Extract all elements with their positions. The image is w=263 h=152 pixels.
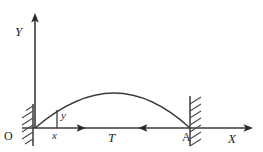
- ordinate-label: y: [61, 110, 66, 121]
- left-support-group: [22, 104, 33, 146]
- deflection-curve: [35, 93, 190, 128]
- diagram-canvas: [0, 0, 263, 152]
- origin-label: O: [4, 130, 13, 142]
- point-a-label: A: [182, 131, 191, 143]
- right-support-group: [190, 96, 201, 146]
- x-axis-label: X: [228, 132, 236, 145]
- abscissa-label: x: [52, 130, 57, 141]
- y-axis-label: Y: [15, 25, 22, 38]
- hatched-wall-icon: [190, 97, 201, 146]
- figure-container: Y X O A T x y: [0, 0, 263, 152]
- hatched-wall-icon: [22, 106, 33, 144]
- span-length-label: T: [108, 131, 115, 144]
